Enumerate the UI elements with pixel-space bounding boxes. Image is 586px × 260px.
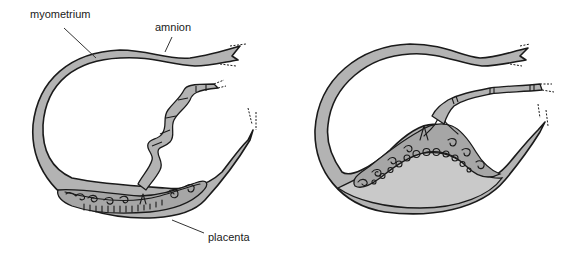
label-placenta: placenta [208,231,250,243]
left-wall-frayed-end-right [248,108,256,130]
left-wall-frayed-end-lower [220,64,236,66]
myometrium-leader-line [64,28,96,58]
placenta-leader-line [172,220,204,233]
right-wall-frayed-end-lower [510,64,522,66]
left-wall-frayed-end-upper [230,44,246,46]
right-wall-frayed-end-upper [520,44,530,46]
label-myometrium: myometrium [30,8,91,20]
amnion-leader-line [165,37,172,52]
right-wall-frayed-end-right [538,104,548,126]
right-cord-frayed-end [540,84,554,92]
right-panel [315,44,554,214]
label-amnion: amnion [155,21,191,33]
left-panel: myometrium amnion placenta [30,8,256,243]
right-umbilical-cord [432,84,542,124]
placenta-diagram: myometrium amnion placenta [0,0,586,260]
